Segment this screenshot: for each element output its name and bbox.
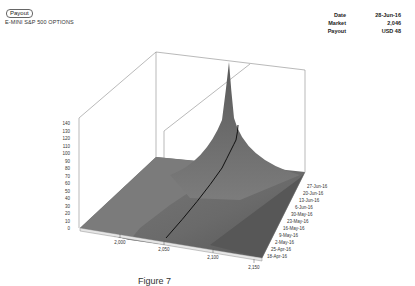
svg-text:23-May-16: 23-May-16 [287, 219, 309, 224]
svg-text:20: 20 [65, 211, 71, 216]
surface-peak [170, 62, 300, 200]
svg-text:40: 40 [65, 196, 71, 201]
z-axis: 0 10 20 30 40 50 60 70 80 90 100 110 120… [62, 121, 70, 231]
svg-text:27-Jun-16: 27-Jun-16 [307, 184, 328, 189]
svg-text:30-May-16: 30-May-16 [291, 212, 313, 217]
svg-text:2-May-16: 2-May-16 [275, 240, 295, 245]
svg-text:2,050: 2,050 [158, 247, 170, 252]
svg-text:25-Apr-16: 25-Apr-16 [271, 247, 292, 252]
svg-text:140: 140 [62, 121, 70, 126]
svg-text:2,100: 2,100 [207, 255, 219, 260]
svg-text:2,000: 2,000 [114, 240, 126, 245]
figure-caption: Figure 7 [138, 276, 171, 286]
svg-text:50: 50 [65, 189, 71, 194]
svg-text:16-May-16: 16-May-16 [283, 226, 305, 231]
svg-text:10: 10 [65, 219, 71, 224]
svg-text:130: 130 [62, 129, 70, 134]
svg-text:120: 120 [62, 136, 70, 141]
svg-text:110: 110 [63, 144, 71, 149]
svg-text:90: 90 [65, 159, 71, 164]
svg-text:80: 80 [65, 166, 71, 171]
svg-text:0: 0 [67, 226, 70, 231]
svg-text:60: 60 [65, 181, 71, 186]
svg-text:6-Jun-16: 6-Jun-16 [295, 205, 313, 210]
svg-text:2,150: 2,150 [248, 265, 260, 270]
svg-text:13-Jun-16: 13-Jun-16 [299, 198, 320, 203]
svg-text:70: 70 [65, 174, 71, 179]
svg-text:18-Apr-16: 18-Apr-16 [267, 254, 288, 259]
svg-text:20-Jun-16: 20-Jun-16 [303, 191, 324, 196]
svg-text:9-May-16: 9-May-16 [279, 233, 299, 238]
svg-text:100: 100 [62, 151, 70, 156]
svg-text:30: 30 [65, 204, 71, 209]
